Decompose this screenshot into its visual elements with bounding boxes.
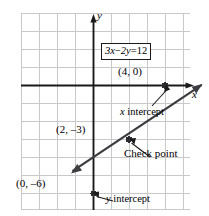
point-label-y-intercept: (0, –6) xyxy=(16,178,45,189)
annotation-x-intercept: x intercept xyxy=(120,107,164,118)
equation-term-1: 3x xyxy=(105,45,115,56)
point-label-check-point: (2, –3) xyxy=(56,124,85,135)
annotation-y-intercept: y intercept xyxy=(106,194,150,205)
equation-rhs: 12 xyxy=(137,45,148,56)
point-label-x-intercept: (4, 0) xyxy=(118,66,142,77)
y-axis-label: y xyxy=(97,10,102,21)
plotted-line xyxy=(71,84,203,174)
leader-lines xyxy=(93,84,170,201)
annotation-check-point: Check point xyxy=(124,148,177,159)
annotation-x-intercept-rest: intercept xyxy=(125,106,164,117)
y-axis-arrowhead xyxy=(90,14,96,23)
graph-figure: 3x−2y=12 y x (4, 0) (2, –3) (0, –6) x in… xyxy=(0,0,209,216)
equation-term-2: 2y xyxy=(121,45,131,56)
x-axis-label: x xyxy=(192,89,197,100)
annotation-y-intercept-rest: intercept xyxy=(111,193,150,204)
equation-box: 3x−2y=12 xyxy=(101,43,151,60)
